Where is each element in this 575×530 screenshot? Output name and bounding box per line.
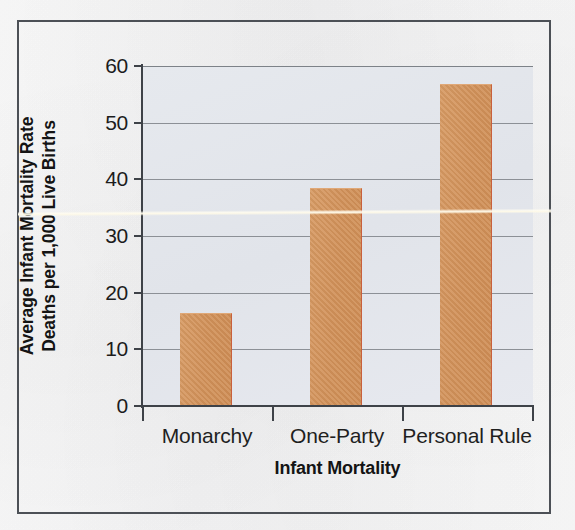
x-tick-right-edge [532, 407, 534, 421]
x-axis-line [141, 405, 534, 407]
bar-personal-rule [440, 84, 492, 406]
y-tick-label-40: 40 [82, 167, 128, 191]
y-axis-tick-labels: 60 50 40 30 20 10 0 [82, 0, 128, 530]
y-tick-20 [134, 292, 143, 294]
y-axis-title: Average Infant Mortality Rate Deaths per… [16, 66, 61, 406]
y-tick-label-60: 60 [82, 54, 128, 78]
y-tick-label-10: 10 [82, 337, 128, 361]
gridline-60 [142, 66, 533, 67]
y-tick-label-20: 20 [82, 281, 128, 305]
y-tick-label-30: 30 [82, 224, 128, 248]
y-tick-label-50: 50 [82, 111, 128, 135]
y-tick-10 [134, 348, 143, 350]
bar-one-party [310, 188, 362, 406]
y-tick-60 [134, 65, 143, 67]
x-tick-one-party-personal-rule [402, 407, 404, 421]
y-axis-title-line-2: Deaths per 1,000 Live Births [38, 66, 60, 406]
chart-canvas: 60 50 40 30 20 10 0 Monarchy One-Party P… [0, 0, 575, 530]
plot-area [142, 66, 533, 406]
x-tick-monarchy-one-party [272, 407, 274, 421]
bar-monarchy [180, 313, 232, 407]
x-axis-title: Infant Mortality [142, 458, 533, 479]
y-tick-50 [134, 122, 143, 124]
y-tick-40 [134, 178, 143, 180]
category-label-personal-rule: Personal Rule [400, 424, 534, 448]
y-tick-label-0: 0 [82, 394, 128, 418]
y-axis-title-line-1: Average Infant Mortality Rate [16, 66, 38, 406]
x-tick-left-edge [142, 407, 144, 421]
category-label-one-party: One-Party [272, 424, 402, 448]
y-tick-30 [134, 235, 143, 237]
category-label-monarchy: Monarchy [142, 424, 272, 448]
